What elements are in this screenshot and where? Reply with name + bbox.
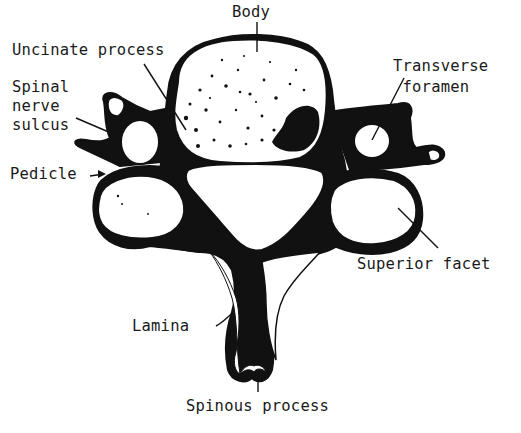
vertebra-diagram: Body Uncinate process Spinal nerve sulcu… bbox=[0, 0, 521, 433]
label-body: Body bbox=[232, 4, 270, 21]
label-lamina: Lamina bbox=[132, 318, 189, 335]
label-superior-facet: Superior facet bbox=[357, 256, 490, 273]
label-uncinate-process: Uncinate process bbox=[12, 42, 165, 59]
label-pedicle: Pedicle bbox=[10, 166, 77, 183]
label-spinal-nerve-sulcus: Spinal nerve sulcus bbox=[12, 78, 69, 135]
label-spinous-process: Spinous process bbox=[186, 398, 329, 415]
label-transverse-foramen: Transverse foramen bbox=[393, 56, 488, 98]
